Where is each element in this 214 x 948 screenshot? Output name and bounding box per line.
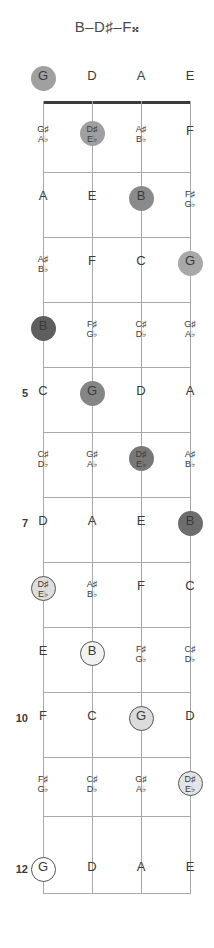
fret-line-9 — [43, 692, 191, 693]
note-sharp-name: A♯ — [87, 579, 98, 589]
fret-line-1 — [43, 172, 191, 173]
note-label-f12-A: A — [116, 861, 166, 872]
note-label-f2-D: E — [67, 190, 117, 201]
note-label-f9-A: F♯G♭ — [116, 644, 166, 664]
note-label-f1-A: A♯B♭ — [116, 124, 166, 144]
note-label-f12-D: D — [67, 861, 117, 872]
note-flat-name: A♭ — [18, 134, 68, 144]
note-label-f1-G: G♯A♭ — [18, 124, 68, 144]
note-sharp-name: A♯ — [185, 449, 196, 459]
note-label-f7-E: B — [165, 515, 214, 526]
note-sharp-name: D♯ — [185, 774, 196, 784]
note-label-f3-E: G — [165, 255, 214, 266]
note-label-f1-E: F — [165, 125, 214, 136]
note-label-f4-D: F♯G♭ — [67, 319, 117, 339]
note-label-f2-E: F♯G♭ — [165, 189, 214, 209]
fret-line-5 — [43, 432, 191, 433]
note-sharp-name: C♯ — [185, 644, 196, 654]
note-flat-name: E♭ — [116, 459, 166, 469]
note-label-f11-A: G♯A♭ — [116, 774, 166, 794]
note-label-f8-A: F — [116, 580, 166, 591]
fret-line-11 — [43, 816, 191, 817]
note-flat-name: D♭ — [165, 654, 214, 664]
note-flat-name: E♭ — [165, 784, 214, 794]
note-flat-name: A♭ — [116, 784, 166, 794]
fret-line-10 — [43, 757, 191, 758]
note-flat-name: G♭ — [18, 784, 68, 794]
note-label-f11-G: F♯G♭ — [18, 774, 68, 794]
note-sharp-name: D♯ — [38, 579, 49, 589]
fret-line-8 — [43, 627, 191, 628]
fret-line-12 — [43, 893, 191, 894]
note-label-f6-D: G♯A♭ — [67, 449, 117, 469]
note-label-f5-E: A — [165, 385, 214, 396]
note-label-f10-G: F — [18, 710, 68, 721]
nut-line — [43, 101, 191, 104]
note-label-f2-A: B — [116, 190, 166, 201]
note-flat-name: D♭ — [116, 329, 166, 339]
note-sharp-name: A♯ — [38, 254, 49, 264]
note-label-f8-D: A♯B♭ — [67, 579, 117, 599]
note-label-f5-G: C — [18, 385, 68, 396]
note-sharp-name: F♯ — [87, 319, 97, 329]
note-label-f11-E: D♯E♭ — [165, 774, 214, 794]
note-flat-name: G♭ — [116, 654, 166, 664]
note-label-f4-E: G♯A♭ — [165, 319, 214, 339]
note-label-f6-G: C♯D♭ — [18, 449, 68, 469]
note-sharp-name: D♯ — [136, 449, 147, 459]
note-label-f6-E: A♯B♭ — [165, 449, 214, 469]
note-label-f7-G: D — [18, 515, 68, 526]
note-label-f7-D: A — [67, 515, 117, 526]
note-label-f8-G: D♯E♭ — [18, 579, 68, 599]
note-label-f9-E: C♯D♭ — [165, 644, 214, 664]
note-label-f1-D: D♯E♭ — [67, 124, 117, 144]
fretboard-diagram: B–D♯–F𝄪 GDAEG♯A♭D♯E♭A♯B♭FAEBF♯G♭A♯B♭FCGB… — [0, 0, 214, 948]
note-label-f12-G: G — [18, 861, 68, 872]
note-label-f8-E: C — [165, 580, 214, 591]
note-sharp-name: C♯ — [87, 774, 98, 784]
note-sharp-name: F♯ — [38, 774, 48, 784]
fret-line-2 — [43, 237, 191, 238]
note-flat-name: B♭ — [116, 134, 166, 144]
note-flat-name: A♭ — [67, 459, 117, 469]
note-flat-name: B♭ — [67, 589, 117, 599]
note-label-f5-A: D — [116, 385, 166, 396]
note-label-f9-G: E — [18, 645, 68, 656]
note-sharp-name: G♯ — [184, 319, 196, 329]
note-flat-name: B♭ — [18, 264, 68, 274]
open-string-note-E: E — [165, 70, 214, 81]
note-flat-name: E♭ — [18, 589, 68, 599]
note-flat-name: B♭ — [165, 459, 214, 469]
note-sharp-name: F♯ — [136, 644, 146, 654]
fret-line-4 — [43, 367, 191, 368]
note-sharp-name: D♯ — [87, 124, 98, 134]
note-flat-name: D♭ — [67, 784, 117, 794]
note-label-f5-D: G — [67, 385, 117, 396]
fret-line-3 — [43, 302, 191, 303]
note-flat-name: D♭ — [18, 459, 68, 469]
note-label-f9-D: B — [67, 645, 117, 656]
note-flat-name: G♭ — [165, 199, 214, 209]
note-sharp-name: G♯ — [135, 774, 147, 784]
note-flat-name: A♭ — [165, 329, 214, 339]
note-flat-name: E♭ — [67, 134, 117, 144]
note-label-f3-A: C — [116, 255, 166, 266]
open-string-note-G: G — [18, 70, 68, 81]
note-label-f10-E: D — [165, 710, 214, 721]
page-title: B–D♯–F𝄪 — [0, 18, 214, 36]
note-sharp-name: F♯ — [185, 189, 195, 199]
note-label-f4-G: B — [18, 320, 68, 331]
note-sharp-name: G♯ — [37, 124, 49, 134]
note-label-f2-G: A — [18, 190, 68, 201]
note-label-f11-D: C♯D♭ — [67, 774, 117, 794]
note-label-f10-A: G — [116, 710, 166, 721]
fret-line-6 — [43, 497, 191, 498]
note-label-f3-D: F — [67, 255, 117, 266]
note-label-f7-A: E — [116, 515, 166, 526]
note-flat-name: G♭ — [67, 329, 117, 339]
note-label-f12-E: E — [165, 861, 214, 872]
fret-line-7 — [43, 562, 191, 563]
note-sharp-name: C♯ — [38, 449, 49, 459]
note-label-f6-A: D♯E♭ — [116, 449, 166, 469]
note-label-f4-A: C♯D♭ — [116, 319, 166, 339]
